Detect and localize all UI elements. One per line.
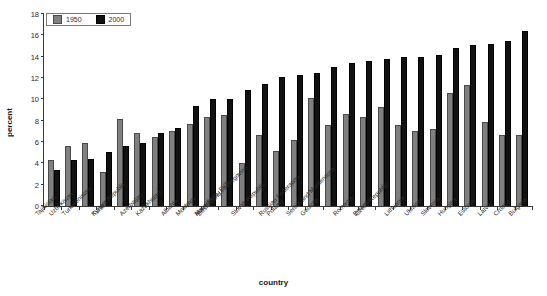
bar-chart: percent 024681012141618 TajikistanUzbeki… <box>0 0 547 296</box>
bar-group <box>410 14 427 206</box>
bar-group <box>340 14 357 206</box>
bar-2000 <box>349 63 355 206</box>
bar-2000 <box>297 75 303 206</box>
bar-groups <box>44 14 532 206</box>
bar-group <box>167 14 184 206</box>
bar-2000 <box>522 31 528 206</box>
plot-area: 024681012141618 <box>43 14 532 207</box>
y-tick-label: 16 <box>31 31 44 40</box>
y-tick-label: 10 <box>31 95 44 104</box>
bar-group <box>392 14 409 206</box>
bar-2000 <box>470 45 476 206</box>
bar-group <box>496 14 513 206</box>
bar-group <box>132 14 149 206</box>
y-tick-label: 6 <box>35 138 44 147</box>
y-axis-title: percent <box>2 88 16 158</box>
y-tick-label: 8 <box>35 116 44 125</box>
x-tick-mark <box>375 206 376 210</box>
bar-group <box>271 14 288 206</box>
bar-2000 <box>227 99 233 206</box>
bar-2000 <box>193 106 199 206</box>
bar-2000 <box>401 57 407 206</box>
bar-group <box>444 14 461 206</box>
bar-group <box>62 14 79 206</box>
legend-item: 2000 <box>96 15 125 24</box>
y-tick-label: 12 <box>31 74 44 83</box>
bar-2000 <box>331 67 337 206</box>
bar-2000 <box>245 90 251 206</box>
legend-item: 1950 <box>53 15 82 24</box>
x-tick-mark <box>253 206 254 210</box>
bar-group <box>45 14 62 206</box>
chart-legend: 19502000 <box>46 13 131 26</box>
bar-group <box>114 14 131 206</box>
bar-group <box>80 14 97 206</box>
bar-group <box>375 14 392 206</box>
bar-group <box>253 14 270 206</box>
x-tick-mark <box>114 206 115 210</box>
bar-group <box>462 14 479 206</box>
x-tick-mark <box>218 206 219 210</box>
legend-label: 1950 <box>66 16 82 23</box>
legend-swatch-icon <box>96 15 105 24</box>
bar-group <box>357 14 374 206</box>
y-tick-label: 4 <box>35 159 44 168</box>
bar-group <box>184 14 201 206</box>
bar-2000 <box>505 41 511 206</box>
bar-group <box>201 14 218 206</box>
bar-group <box>479 14 496 206</box>
legend-swatch-icon <box>53 15 62 24</box>
x-tick-mark <box>323 206 324 210</box>
bar-2000 <box>88 159 94 206</box>
bar-group <box>149 14 166 206</box>
y-tick-label: 18 <box>31 10 44 19</box>
bar-2000 <box>123 146 129 206</box>
x-tick-mark <box>532 206 533 210</box>
bar-2000 <box>175 128 181 206</box>
bar-2000 <box>453 48 459 206</box>
bar-2000 <box>418 57 424 206</box>
bar-group <box>97 14 114 206</box>
bar-2000 <box>436 55 442 206</box>
bar-2000 <box>366 61 372 206</box>
x-tick-mark <box>79 206 80 210</box>
bar-2000 <box>488 44 494 206</box>
legend-label: 2000 <box>109 16 125 23</box>
x-axis-labels: TajikistanUzbekistanTurkmenistanTurkeyKy… <box>43 212 532 274</box>
x-axis-title: country <box>0 278 547 287</box>
bar-group <box>427 14 444 206</box>
y-tick-label: 14 <box>31 52 44 61</box>
y-tick-label: 2 <box>35 180 44 189</box>
bar-group <box>514 14 531 206</box>
